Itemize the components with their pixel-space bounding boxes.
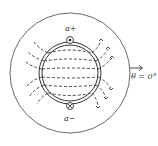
flux-lines-left [26,42,48,104]
coil-top-dot-symbol [67,37,74,44]
flux-lines-inner [42,50,98,96]
machine-cross-section-diagram: a+ a− θ = 0° [0,0,158,146]
coil-bottom-cross-symbol [67,103,74,110]
reference-arrow-icon [130,66,143,71]
rotor-outer-ring [39,42,101,104]
flux-arrowheads [96,39,114,108]
label-coil-bottom: a− [64,114,75,123]
label-coil-top: a+ [65,24,76,33]
label-angle-reference: θ = 0° [131,72,157,81]
rotor-inner-ring [42,45,98,101]
flux-lines-right [92,41,112,106]
